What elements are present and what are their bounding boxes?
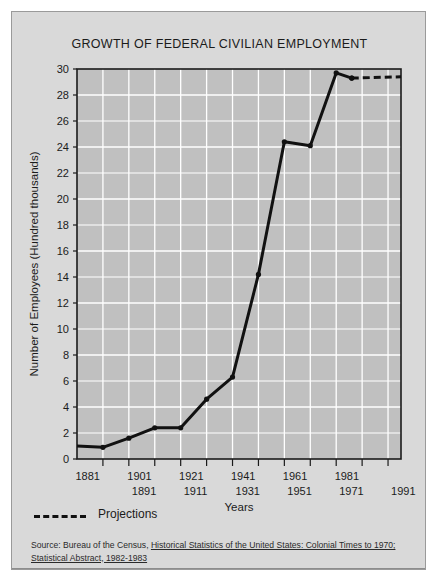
data-point-marker — [308, 143, 313, 148]
data-point-marker — [230, 375, 235, 380]
x-tick-label: 1911 — [184, 485, 208, 497]
data-point-marker — [204, 397, 209, 402]
x-tick-label: 1921 — [179, 470, 203, 482]
legend-item-projections: Projections — [98, 507, 157, 521]
legend: Projections — [34, 507, 414, 527]
data-point-marker — [282, 139, 287, 144]
source-note: Source: Bureau of the Census, Historical… — [31, 539, 416, 564]
y-tick-label: 2 — [63, 427, 69, 439]
y-tick-label: 18 — [57, 219, 69, 231]
y-tick-label: 0 — [63, 453, 69, 465]
y-tick-label: 12 — [57, 297, 69, 309]
x-tick-label: 1991 — [391, 485, 415, 497]
y-tick-label: 28 — [57, 89, 69, 101]
data-point-marker — [349, 76, 354, 81]
y-tick-label: 6 — [63, 375, 69, 387]
data-point-marker — [178, 425, 183, 430]
y-tick-label: 20 — [57, 193, 69, 205]
y-tick-label: 22 — [57, 167, 69, 179]
y-tick-label: 14 — [57, 271, 69, 283]
x-tick-label: 1901 — [127, 470, 151, 482]
data-point-marker — [152, 425, 157, 430]
line-chart-plot: 0246810121416182022242628301881189119011… — [12, 12, 427, 512]
footer-divider — [12, 568, 425, 569]
x-tick-label: 1951 — [287, 485, 311, 497]
x-tick-label: 1891 — [132, 485, 156, 497]
plot-background — [77, 69, 401, 459]
data-point-marker — [256, 272, 261, 277]
y-tick-label: 24 — [57, 141, 69, 153]
source-prefix: Source: Bureau of the Census, — [31, 540, 151, 550]
y-tick-label: 8 — [63, 349, 69, 361]
y-tick-label: 30 — [57, 63, 69, 75]
y-tick-label: 26 — [57, 115, 69, 127]
y-tick-label: 16 — [57, 245, 69, 257]
chart-figure: GROWTH OF FEDERAL CIVILIAN EMPLOYMENT 02… — [11, 11, 426, 570]
data-point-marker — [334, 70, 339, 75]
data-point-marker — [126, 436, 131, 441]
source-citation-1: Historical Statistics of the United Stat… — [151, 540, 396, 550]
y-axis-title: Number of Employees (Hundred thousands) — [28, 151, 40, 376]
x-tick-label: 1931 — [236, 485, 260, 497]
projections-dash-swatch — [34, 515, 86, 518]
source-citation-2: Statistical Abstract, 1982-1983 — [31, 553, 147, 563]
y-tick-label: 10 — [57, 323, 69, 335]
x-tick-label: 1981 — [335, 470, 359, 482]
x-tick-label: 1961 — [283, 470, 307, 482]
x-tick-label: 1941 — [231, 470, 255, 482]
x-tick-label: 1881 — [75, 470, 99, 482]
y-tick-label: 4 — [63, 401, 69, 413]
x-tick-label: 1971 — [339, 485, 363, 497]
data-point-marker — [100, 445, 105, 450]
